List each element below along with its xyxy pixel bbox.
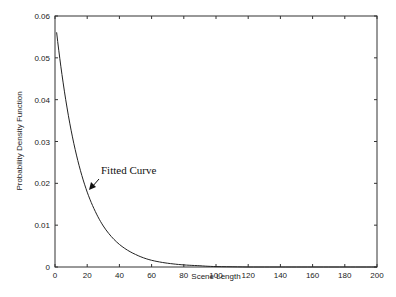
y-tick-label: 0.01 bbox=[34, 221, 50, 230]
y-tick-label: 0.03 bbox=[34, 138, 50, 147]
x-tick-label: 120 bbox=[242, 271, 256, 280]
fitted-curve-annotation: Fitted Curve bbox=[101, 164, 156, 176]
x-axis-ticks: 020406080100120140160180200 bbox=[53, 16, 384, 280]
x-tick-label: 180 bbox=[338, 271, 352, 280]
y-axis-label: Probability Density Function bbox=[15, 91, 24, 190]
y-tick-label: 0 bbox=[46, 263, 51, 272]
x-tick-label: 200 bbox=[370, 271, 384, 280]
x-tick-label: 60 bbox=[147, 271, 156, 280]
y-tick-label: 0.02 bbox=[34, 179, 50, 188]
annotation-arrow-icon bbox=[89, 179, 99, 190]
plot-frame bbox=[55, 16, 377, 267]
x-tick-label: 160 bbox=[306, 271, 320, 280]
chart: 020406080100120140160180200 00.010.020.0… bbox=[0, 0, 396, 297]
y-tick-label: 0.05 bbox=[34, 54, 50, 63]
x-tick-label: 40 bbox=[115, 271, 124, 280]
y-axis-ticks: 00.010.020.030.040.050.06 bbox=[34, 12, 377, 272]
x-axis-label: Scene Length bbox=[191, 272, 240, 281]
x-tick-label: 80 bbox=[179, 271, 188, 280]
x-tick-label: 20 bbox=[83, 271, 92, 280]
fitted-curve-line bbox=[57, 32, 377, 267]
x-tick-label: 140 bbox=[274, 271, 288, 280]
x-tick-label: 0 bbox=[53, 271, 58, 280]
y-tick-label: 0.06 bbox=[34, 12, 50, 21]
y-tick-label: 0.04 bbox=[34, 96, 50, 105]
